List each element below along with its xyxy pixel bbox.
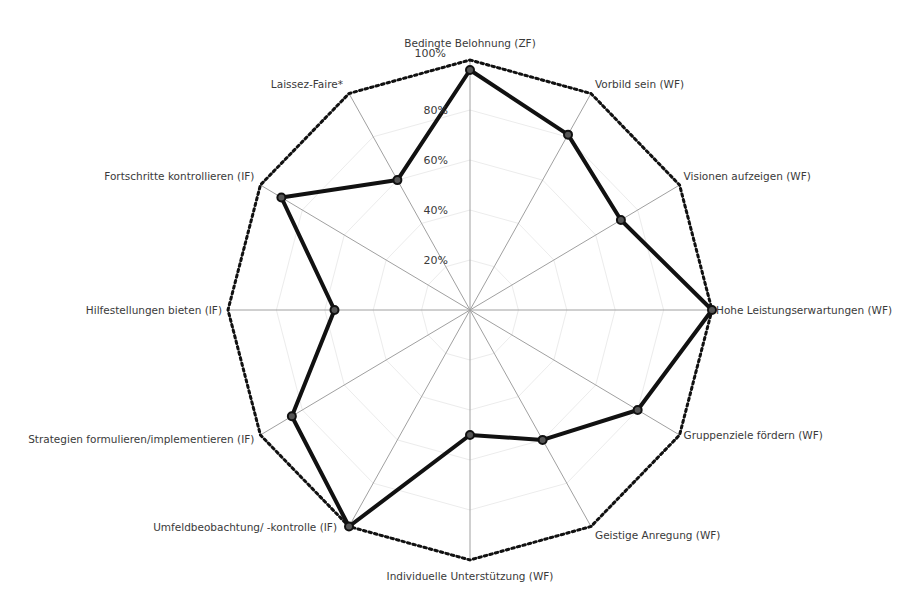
data-markers bbox=[277, 66, 716, 531]
data-point-marker bbox=[288, 412, 296, 420]
tick-label: 60% bbox=[424, 154, 448, 167]
axis-label: Geistige Anregung (WF) bbox=[595, 529, 720, 541]
data-point-marker bbox=[564, 131, 572, 139]
radar-chart: 20%40%60%80%100% Bedingte Belohnung (ZF)… bbox=[0, 0, 915, 602]
axis-spoke bbox=[349, 93, 470, 310]
data-point-marker bbox=[634, 406, 642, 414]
axis-spoke bbox=[349, 310, 470, 527]
radial-tick-labels: 20%40%60%80%100% bbox=[415, 47, 448, 267]
axis-spokes bbox=[228, 60, 712, 560]
axis-label: Vorbild sein (WF) bbox=[595, 78, 684, 90]
axis-spoke bbox=[470, 93, 591, 310]
axis-label: Hilfestellungen bieten (IF) bbox=[86, 304, 222, 316]
data-point-marker bbox=[393, 176, 401, 184]
axis-label: Hohe Leistungserwartungen (WF) bbox=[716, 304, 892, 316]
tick-label: 80% bbox=[424, 104, 448, 117]
axis-spoke bbox=[470, 310, 591, 527]
data-point-marker bbox=[617, 216, 625, 224]
data-point-marker bbox=[345, 523, 353, 531]
axis-label: Fortschritte kontrollieren (IF) bbox=[104, 170, 254, 182]
tick-label: 40% bbox=[424, 204, 448, 217]
axis-label: Bedingte Belohnung (ZF) bbox=[404, 37, 536, 49]
axis-label: Individuelle Unterstützung (WF) bbox=[387, 570, 554, 582]
tick-label: 20% bbox=[424, 254, 448, 267]
axis-spoke bbox=[470, 310, 680, 435]
data-series-line bbox=[281, 70, 712, 527]
axis-label: Umfeldbeobachtung/ -kontrolle (IF) bbox=[153, 521, 337, 533]
data-point-marker bbox=[708, 306, 716, 314]
axis-label: Visionen aufzeigen (WF) bbox=[684, 170, 811, 182]
axis-label: Laissez-Faire* bbox=[271, 78, 343, 90]
data-point-marker bbox=[330, 306, 338, 314]
data-point-marker bbox=[466, 66, 474, 74]
data-point-marker bbox=[277, 194, 285, 202]
data-point-marker bbox=[466, 431, 474, 439]
axis-label: Gruppenziele fördern (WF) bbox=[684, 429, 823, 441]
axis-label: Strategien formulieren/implementieren (I… bbox=[28, 433, 254, 445]
data-point-marker bbox=[539, 436, 547, 444]
